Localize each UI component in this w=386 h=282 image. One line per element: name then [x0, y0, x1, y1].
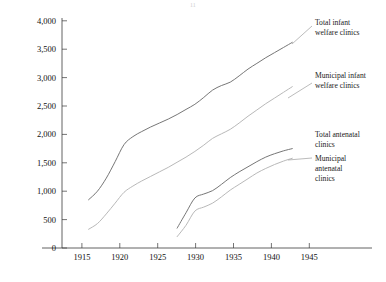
x-tick-label: 1920: [111, 252, 128, 262]
x-tick-label: 1945: [301, 252, 318, 262]
x-tick-label: 1940: [263, 252, 280, 262]
y-tick-labels: 4,000 3,500 3,000 2,500 2,000 1,500 1,00…: [37, 16, 56, 253]
series-label-line: Municipal infant: [315, 71, 367, 80]
series-label-line: Municipal: [315, 154, 346, 163]
x-tick-label: 1925: [149, 252, 166, 262]
series-curves: [89, 42, 293, 236]
series-label-total-infant-welfare: Total infant welfare clinics: [315, 18, 360, 37]
series-line-municipal-antenatal-clinics: [177, 158, 292, 236]
series-line-municipal-infant-welfare-clinics: [89, 87, 293, 230]
page-artifact-text: 11: [190, 2, 196, 8]
series-label-line: Total antenatal: [315, 130, 360, 139]
series-label-line: welfare clinics: [315, 81, 360, 90]
y-tick-label: 0: [52, 243, 56, 253]
y-tick-label: 1,500: [37, 158, 56, 168]
series-label-line: clinics: [315, 174, 335, 183]
y-tick-label: 3,000: [37, 73, 56, 83]
y-tick-marks: [62, 21, 67, 248]
y-tick-label: 3,500: [37, 44, 56, 54]
y-tick-label: 4,000: [37, 16, 56, 26]
chart-svg: 11 4,000 3,500 3,000 2,500 2,000 1,500 1…: [0, 0, 386, 282]
series-label-line: antenatal: [315, 164, 342, 173]
series-label-line: Total infant: [315, 18, 351, 27]
chart-figure: 11 4,000 3,500 3,000 2,500 2,000 1,500 1…: [0, 0, 386, 282]
x-tick-label: 1930: [187, 252, 204, 262]
x-tick-label: 1935: [225, 252, 242, 262]
y-tick-label: 2,000: [37, 129, 56, 139]
series-label-municipal-infant-welfare: Municipal infant welfare clinics: [315, 71, 367, 90]
series-label-municipal-antenatal: Municipal antenatal clinics: [315, 154, 346, 183]
series-line-total-infant-welfare-clinics: [89, 42, 293, 199]
series-label-total-antenatal: Total antenatal clinics: [315, 130, 360, 149]
series-label-line: welfare clinics: [315, 28, 360, 37]
leader-line-total-infant: [292, 26, 312, 44]
x-tick-label: 1915: [73, 252, 90, 262]
series-label-line: clinics: [315, 140, 335, 149]
y-tick-label: 500: [43, 215, 56, 225]
x-tick-labels: 1915 1920 1925 1930 1935 1940 1945: [73, 252, 317, 262]
leader-lines: [288, 26, 312, 160]
x-tick-marks: [82, 243, 309, 248]
leader-line-municipal-infant: [288, 83, 312, 98]
series-line-total-antenatal-clinics: [177, 149, 292, 229]
y-tick-label: 1,000: [37, 186, 56, 196]
y-tick-label: 2,500: [37, 101, 56, 111]
